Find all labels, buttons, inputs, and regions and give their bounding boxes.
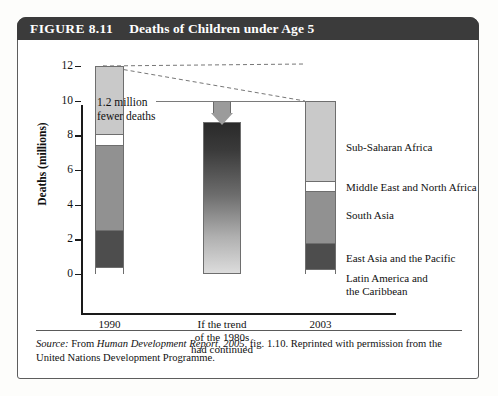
source-italic-title: Human Development Report, 2005, xyxy=(97,338,247,349)
down-arrow-head xyxy=(211,113,233,125)
source-text-1: From xyxy=(69,338,97,349)
bar-2003-seg-east-asia-pacific xyxy=(306,243,335,269)
y-tick-8: 8 xyxy=(75,135,81,137)
y-tick-label-2: 2 xyxy=(25,232,73,244)
source-note: Source: From Human Development Report, 2… xyxy=(36,337,466,365)
legend-item-middle-east-and-north-africa: Middle East and North Africa xyxy=(346,181,477,194)
legend-item-latin-america-and-the-caribbean: Latin America and the Caribbean xyxy=(346,272,428,298)
bar-1990-seg-east-asia-pacific xyxy=(96,230,123,267)
y-tick-label-4: 4 xyxy=(25,198,73,210)
x-axis-line xyxy=(81,313,396,315)
legend-item-south-asia: South Asia xyxy=(346,209,394,222)
y-tick-0: 0 xyxy=(75,274,81,276)
y-tick-4: 4 xyxy=(75,205,81,207)
y-tick-6: 6 xyxy=(75,170,81,172)
y-axis-line xyxy=(81,105,83,314)
legend-item-sub-saharan-africa: Sub-Saharan Africa xyxy=(346,141,432,154)
source-divider xyxy=(36,330,462,331)
bar-1990-seg-latin-america-caribbean xyxy=(96,267,123,275)
figure-page: FIGURE 8.11 Deaths of Children under Age… xyxy=(0,0,498,396)
x-category-label-1990: 1990 xyxy=(80,318,139,331)
bar-2003-seg-latin-america-caribbean xyxy=(306,269,335,275)
bar-2003-seg-middle-east-north-africa xyxy=(306,181,335,192)
bar-2003[interactable] xyxy=(305,101,336,274)
legend-item-east-asia-and-the-pacific: East Asia and the Pacific xyxy=(346,252,455,265)
figure-title: Deaths of Children under Age 5 xyxy=(129,21,314,37)
bar-2003-seg-sub-saharan-africa xyxy=(306,102,335,181)
x-category-label-2003: 2003 xyxy=(291,318,350,331)
source-label: Source: xyxy=(36,338,69,349)
y-tick-label-6: 6 xyxy=(25,163,73,175)
bar-2003-seg-south-asia xyxy=(306,191,335,243)
y-tick-label-10: 10 xyxy=(25,94,73,106)
y-axis-label: Deaths (millions) xyxy=(36,99,48,229)
y-tick-12: 12 xyxy=(75,66,81,68)
y-tick-label-0: 0 xyxy=(25,267,73,279)
bar-trend-projection[interactable] xyxy=(203,122,241,274)
figure-header: FIGURE 8.11 Deaths of Children under Age… xyxy=(17,17,479,40)
y-tick-label-12: 12 xyxy=(25,59,73,71)
chart-plot-area: 12 10 8 6 4 2 0 Deaths (millions) 1990 xyxy=(17,40,479,379)
y-tick-2: 2 xyxy=(75,239,81,241)
figure-number: FIGURE 8.11 xyxy=(30,21,113,37)
bar-1990-seg-middle-east-north-africa xyxy=(96,134,123,145)
bar-1990-seg-south-asia xyxy=(96,145,123,230)
annotation-label: 1.2 million fewer deaths xyxy=(97,96,193,123)
y-tick-10: 10 xyxy=(75,101,81,103)
y-tick-label-8: 8 xyxy=(25,128,73,140)
